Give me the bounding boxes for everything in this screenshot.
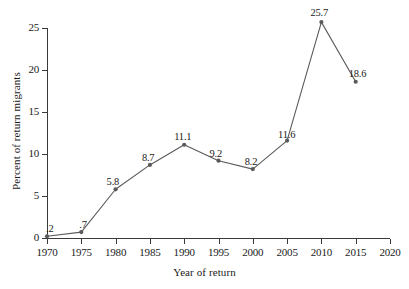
point-label-1970: .2: [46, 223, 53, 234]
x-axis-title: Year of return: [0, 266, 409, 278]
point-label-1975: .7: [79, 219, 86, 230]
series-line: [47, 22, 356, 236]
point-label-1980: 5.8: [107, 176, 120, 187]
data-point-2015: [354, 80, 358, 84]
y-axis-title: Percent of return migrants: [10, 31, 22, 231]
data-point-1970: [45, 234, 49, 238]
data-point-2000: [251, 167, 255, 171]
data-point-1980: [114, 187, 118, 191]
point-label-2000: 8.2: [245, 156, 258, 167]
line-chart: 0510152025 19701975198019851990199520002…: [0, 0, 409, 289]
point-label-1985: 8.7: [142, 152, 155, 163]
data-point-1975: [79, 230, 83, 234]
point-label-2015: 18.6: [349, 68, 367, 79]
data-series: [0, 0, 409, 289]
point-label-2010: 25.7: [310, 7, 328, 18]
data-point-1985: [148, 163, 152, 167]
point-label-1995: 9.2: [210, 148, 223, 159]
point-label-2005: 11.6: [278, 129, 295, 140]
point-label-1990: 11.1: [174, 131, 191, 142]
data-point-1995: [216, 159, 220, 163]
data-point-2010: [319, 20, 323, 24]
data-point-1990: [182, 143, 186, 147]
